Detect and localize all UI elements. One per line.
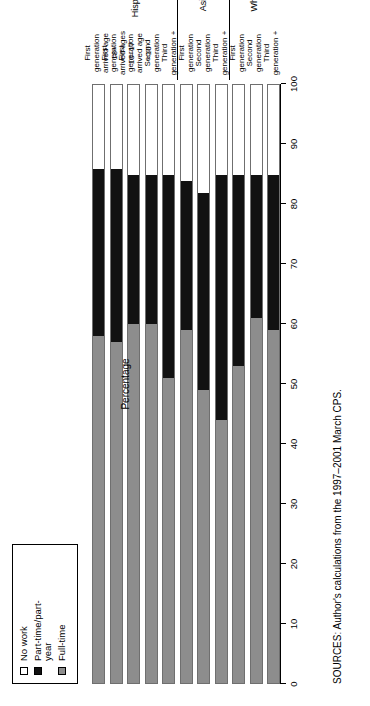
- axis-tick-label: 30: [288, 499, 299, 510]
- legend-label-full-time: Full-time: [57, 625, 68, 661]
- legend-item-full-time: Full-time: [57, 553, 68, 675]
- stacked-bar[interactable]: [180, 84, 193, 684]
- axis-tick: [281, 563, 286, 564]
- bar-segment-no-work: [233, 85, 244, 175]
- bar-segment-part-time-part-year: [216, 175, 227, 420]
- bar-segment-full-time: [163, 378, 174, 683]
- legend-swatch-part-time-icon: [34, 667, 42, 675]
- bar-slot: [162, 84, 175, 684]
- bar-segment-part-time-part-year: [163, 175, 174, 378]
- bar-segment-full-time: [181, 330, 192, 683]
- bar-slot: [267, 84, 280, 684]
- bar-segment-full-time: [233, 366, 244, 683]
- category-label: Third generation +: [262, 26, 280, 80]
- stacked-bar[interactable]: [232, 84, 245, 684]
- axis-tick-label: 90: [288, 139, 299, 150]
- bar-segment-part-time-part-year: [128, 175, 139, 325]
- category-label: First generation arrived ages 10–17: [100, 26, 136, 80]
- bar-slot: [145, 84, 158, 684]
- axis-tick: [281, 203, 286, 204]
- bar-segment-full-time: [251, 318, 262, 683]
- stacked-bar[interactable]: [162, 84, 175, 684]
- bar-segment-part-time-part-year: [111, 169, 122, 342]
- bar-segment-no-work: [93, 85, 104, 169]
- axis-tick-label: 80: [288, 199, 299, 210]
- stacked-bar[interactable]: [267, 84, 280, 684]
- group-label-asian: Asian: [198, 0, 208, 22]
- bar-slot: [232, 84, 245, 684]
- stacked-bar[interactable]: [197, 84, 210, 684]
- category-label: Third generation +: [160, 26, 178, 80]
- stacked-bar[interactable]: [145, 84, 158, 684]
- axis-tick-label: 100: [288, 76, 299, 92]
- bar-segment-no-work: [146, 85, 157, 175]
- axis-tick: [281, 323, 286, 324]
- axis-tick-label: 50: [288, 379, 299, 390]
- bar-segment-part-time-part-year: [198, 193, 209, 390]
- legend-swatch-full-time-icon: [58, 667, 66, 675]
- bar-segment-no-work: [251, 85, 262, 175]
- bar-segment-part-time-part-year: [233, 175, 244, 366]
- axis-tick: [281, 623, 286, 624]
- bar-segment-part-time-part-year: [146, 175, 157, 325]
- axis-tick-label: 40: [288, 439, 299, 450]
- bar-slot: [180, 84, 193, 684]
- bar-segment-no-work: [198, 85, 209, 193]
- sources-caption: SOURCES: Author's calculations from the …: [332, 389, 343, 684]
- bar-segment-full-time: [198, 390, 209, 683]
- axis-tick-label: 0: [288, 681, 299, 686]
- bar-slot: [250, 84, 263, 684]
- axis-tick: [281, 383, 286, 384]
- legend-item-part-time: Part-time/part- year: [33, 553, 54, 675]
- axis-tick-label: 20: [288, 559, 299, 570]
- axis-tick: [281, 83, 286, 84]
- axis-tick: [281, 443, 286, 444]
- axis-tick: [281, 263, 286, 264]
- category-label: First generation arrived age 18+: [83, 26, 119, 80]
- value-axis: 0102030405060708090100: [280, 84, 281, 684]
- legend-label-part-time: Part-time/part- year: [33, 600, 54, 661]
- category-label: Third generation +: [211, 26, 229, 80]
- bar-segment-part-time-part-year: [181, 181, 192, 331]
- bar-slot: [215, 84, 228, 684]
- axis-title: Percentage: [120, 358, 131, 409]
- figure-root: No work Part-time/part- year Full-time 0…: [0, 0, 370, 706]
- stacked-bar[interactable]: [250, 84, 263, 684]
- group-label-hispanic: Hispanic: [130, 0, 140, 22]
- bar-segment-no-work: [163, 85, 174, 175]
- legend-label-no-work: No work: [19, 626, 30, 661]
- bar-segment-part-time-part-year: [268, 175, 279, 330]
- category-label: Second generation: [245, 26, 263, 80]
- bar-segment-no-work: [128, 85, 139, 175]
- group-separator: [177, 0, 178, 80]
- bar-segment-full-time: [93, 336, 104, 683]
- axis-tick: [281, 143, 286, 144]
- legend-swatch-no-work-icon: [20, 667, 28, 675]
- axis-tick-label: 10: [288, 619, 299, 630]
- stacked-bar[interactable]: [215, 84, 228, 684]
- category-label: Second generation: [143, 26, 161, 80]
- axis-tick: [281, 683, 286, 684]
- bar-segment-no-work: [111, 85, 122, 169]
- bar-segment-part-time-part-year: [93, 169, 104, 336]
- bar-slot: [197, 84, 210, 684]
- group-separator: [229, 0, 230, 80]
- axis-tick-label: 70: [288, 259, 299, 270]
- category-label: First generation arrived age <10: [117, 26, 153, 80]
- category-label: First generation: [177, 26, 195, 80]
- group-label-white: White: [249, 0, 259, 22]
- bar-segment-no-work: [181, 85, 192, 181]
- bar-segment-full-time: [268, 330, 279, 683]
- category-label: Second generation: [194, 26, 212, 80]
- axis-tick-label: 60: [288, 319, 299, 330]
- axis-tick: [281, 503, 286, 504]
- bar-segment-no-work: [268, 85, 279, 175]
- legend-item-no-work: No work: [19, 553, 30, 675]
- bar-segment-full-time: [146, 324, 157, 683]
- chart-legend: No work Part-time/part- year Full-time: [12, 544, 78, 684]
- chart-plot-area: 0102030405060708090100 Percentage First …: [92, 84, 280, 684]
- bar-slot: [92, 84, 105, 684]
- bar-segment-part-time-part-year: [251, 175, 262, 319]
- bar-segment-full-time: [216, 420, 227, 683]
- stacked-bar[interactable]: [92, 84, 105, 684]
